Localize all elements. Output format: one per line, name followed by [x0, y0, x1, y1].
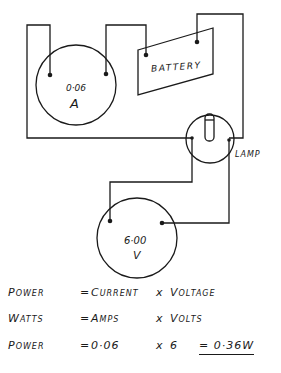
equals-sign: =	[80, 286, 90, 299]
wire-lamp-to-voltmeter-left	[110, 138, 192, 221]
terminal-dot	[195, 40, 200, 45]
ammeter-unit: A	[69, 96, 79, 111]
voltmeter-reading: 6·00	[124, 235, 146, 246]
multiply-sign: x	[156, 312, 164, 325]
equation-term-1: Current	[91, 286, 139, 299]
equals-sign: =	[80, 312, 90, 325]
lamp-label: Lamp	[235, 150, 261, 159]
voltmeter-unit: V	[133, 249, 142, 262]
terminal-dot	[48, 73, 53, 78]
ammeter-reading: 0·06	[66, 83, 86, 93]
multiply-sign: x	[156, 339, 164, 352]
equation-row: Power = 0·06 x 6 = 0·36W	[0, 339, 281, 359]
equation-result: = 0·36W	[199, 339, 254, 355]
equation-row: Power = Current x Voltage	[0, 286, 281, 306]
terminal-dot	[227, 138, 231, 142]
equation-term-1: Amps	[91, 312, 119, 325]
equation-term-2: Volts	[170, 312, 203, 325]
equation-term-2: 6	[170, 339, 178, 352]
terminal-dot	[190, 136, 194, 140]
terminal-dot	[108, 219, 113, 224]
equation-label: Watts	[8, 312, 44, 325]
equation-term-1: 0·06	[91, 339, 120, 352]
equation-row: Watts = Amps x Volts	[0, 312, 281, 332]
terminal-dot	[144, 53, 149, 58]
terminal-dot	[160, 221, 165, 226]
equation-label: Power	[8, 286, 44, 299]
equation-term-2: Voltage	[170, 286, 216, 299]
battery-label: Battery	[151, 60, 202, 74]
equals-sign: =	[80, 339, 90, 352]
multiply-sign: x	[156, 286, 164, 299]
equation-label: Power	[8, 339, 44, 352]
terminal-dot	[104, 72, 109, 77]
lamp-bulb	[205, 114, 214, 141]
